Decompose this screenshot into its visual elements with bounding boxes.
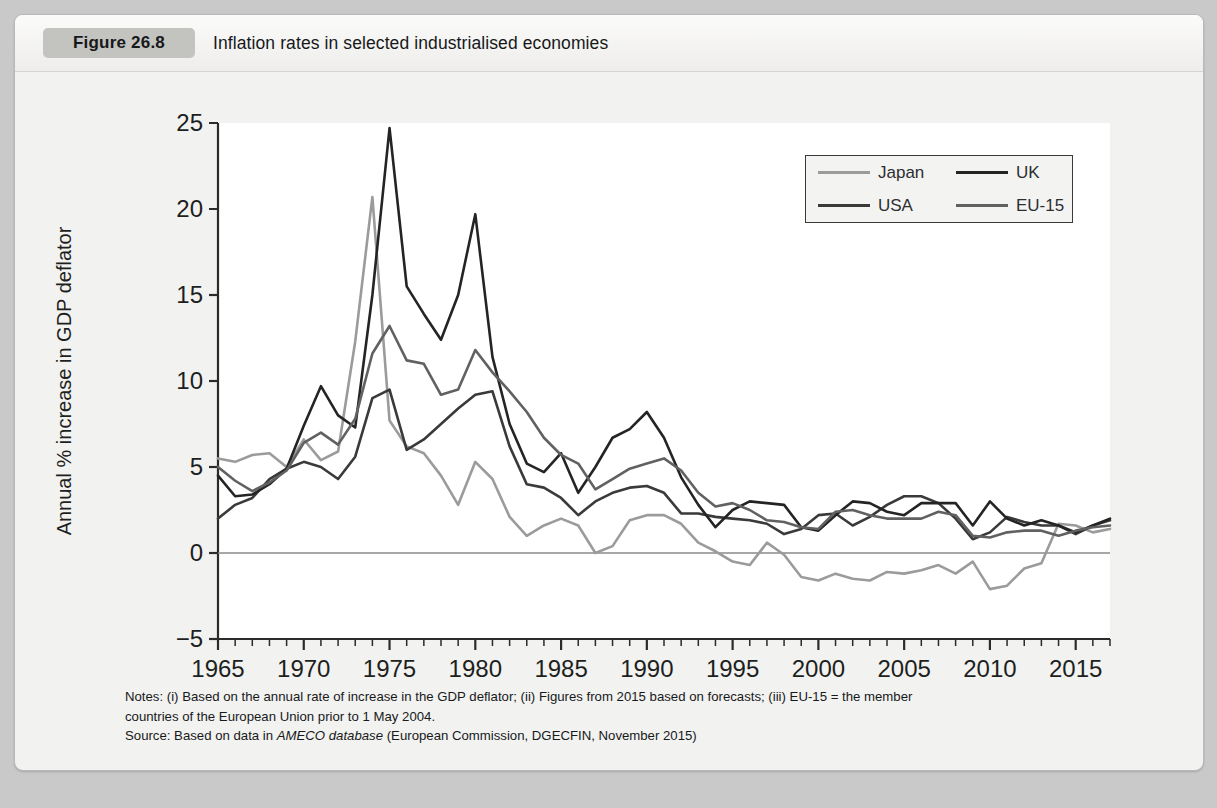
chart-plot-area: 1965197019751980198519901995200020052010… [39, 77, 1179, 677]
figure-number-badge: Figure 26.8 [43, 28, 195, 58]
legend-label-uk: UK [1016, 163, 1040, 183]
legend-item-japan[interactable]: Japan [806, 163, 944, 183]
x-tick-labels: 1965197019751980198519901995200020052010… [191, 655, 1102, 677]
figure-title: Inflation rates in selected industrialis… [213, 28, 608, 58]
svg-text:15: 15 [176, 281, 203, 308]
source-suffix: (European Commission, DGECFIN, November … [383, 728, 697, 743]
svg-text:1965: 1965 [191, 655, 244, 677]
notes-line-2: countries of the European Union prior to… [125, 707, 1135, 727]
y-axis-label: Annual % increase in GDP deflator [53, 226, 75, 535]
source-prefix: Source: Based on data in [125, 728, 277, 743]
figure-card: Figure 26.8 Inflation rates in selected … [14, 14, 1204, 771]
svg-text:25: 25 [176, 109, 203, 136]
legend-swatch-usa [818, 204, 870, 207]
legend-item-uk[interactable]: UK [944, 163, 1040, 183]
svg-text:5: 5 [190, 453, 203, 480]
svg-text:1970: 1970 [277, 655, 330, 677]
svg-text:20: 20 [176, 195, 203, 222]
legend-swatch-uk [956, 171, 1008, 174]
legend-swatch-eu15 [956, 204, 1008, 207]
legend-label-usa: USA [878, 196, 913, 216]
svg-text:−5: −5 [176, 625, 203, 652]
legend-row-1: Japan UK [806, 156, 1072, 189]
svg-text:1975: 1975 [363, 655, 416, 677]
legend-swatch-japan [818, 171, 870, 174]
notes-line-1: Notes: (i) Based on the annual rate of i… [125, 687, 1135, 707]
svg-text:2000: 2000 [792, 655, 845, 677]
svg-text:2010: 2010 [963, 655, 1016, 677]
chart-legend: Japan UK USA EU-15 [805, 155, 1073, 223]
svg-text:2015: 2015 [1049, 655, 1102, 677]
legend-label-japan: Japan [878, 163, 924, 183]
figure-notes: Notes: (i) Based on the annual rate of i… [125, 687, 1135, 746]
svg-text:10: 10 [176, 367, 203, 394]
legend-item-eu15[interactable]: EU-15 [944, 196, 1064, 216]
svg-text:1990: 1990 [620, 655, 673, 677]
legend-label-eu15: EU-15 [1016, 196, 1064, 216]
legend-item-usa[interactable]: USA [806, 196, 944, 216]
legend-row-2: USA EU-15 [806, 189, 1072, 222]
svg-text:2005: 2005 [877, 655, 930, 677]
svg-text:0: 0 [190, 539, 203, 566]
svg-text:1995: 1995 [706, 655, 759, 677]
source-database-name: AMECO database [277, 728, 383, 743]
svg-text:1980: 1980 [449, 655, 502, 677]
figure-source: Source: Based on data in AMECO database … [125, 726, 1135, 746]
figure-header: Figure 26.8 Inflation rates in selected … [15, 15, 1203, 72]
svg-text:1985: 1985 [534, 655, 587, 677]
